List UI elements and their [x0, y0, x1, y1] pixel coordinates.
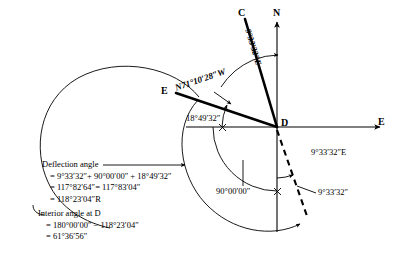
- label-angle-9deg: 9°33′32″: [318, 188, 348, 197]
- dashed-prolongation: [277, 130, 307, 216]
- deflection-line-1: = 9°33′32″+ 90°00′00″ + 18°49′32″: [42, 171, 172, 183]
- diagram-canvas: C N E D E 9°33′32″E N71°10′28″W 18°49′32…: [0, 0, 412, 270]
- deflection-angle-note: Deflection angle = 9°33′32″+ 90°00′00″ +…: [42, 159, 172, 205]
- interior-angle-note: Interior angle at D = 180°00′00″ − 118°2…: [38, 208, 139, 243]
- arc-9deg-small: [277, 175, 293, 178]
- interior-line-1: = 180°00′00″ − 118°23′04″: [38, 220, 139, 232]
- deflection-line-3: = 118°23′04″R: [42, 194, 172, 206]
- pointer-to-dc-line: [214, 92, 231, 104]
- deflection-line-2: = 117°82′64″= 117°83′04″: [42, 182, 172, 194]
- leader-9deg-small: [297, 186, 316, 193]
- arc-90deg: [213, 127, 277, 191]
- interior-line-2: = 61°36′56″: [38, 231, 139, 243]
- label-angle-90deg: 90°00′00″: [216, 187, 250, 196]
- label-north-axis: N: [273, 8, 280, 18]
- label-point-e: E: [161, 86, 168, 96]
- interior-title: Interior angle at D: [38, 208, 139, 220]
- label-point-c: C: [238, 8, 245, 18]
- label-east-axis: E: [378, 117, 385, 127]
- label-point-d: D: [281, 118, 288, 128]
- label-angle-18deg: 18°49′32″: [186, 114, 220, 123]
- deflection-title: Deflection angle: [42, 159, 172, 171]
- label-bearing-right: 9°33′32″E: [311, 148, 346, 157]
